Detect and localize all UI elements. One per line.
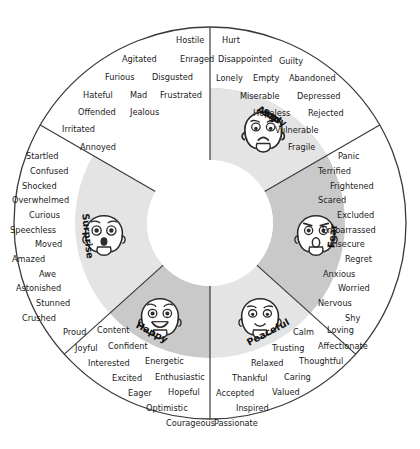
- pupil-left: [94, 228, 98, 232]
- face-outline: [86, 216, 123, 252]
- face-paws: [97, 247, 111, 255]
- face-paws: [256, 144, 270, 152]
- pupil-right: [269, 127, 272, 130]
- mouth-open: [101, 238, 107, 245]
- pupil-left: [251, 313, 254, 316]
- face-paws: [253, 330, 267, 338]
- emotion-wheel: [0, 0, 420, 449]
- face-outline: [245, 112, 282, 148]
- face-paws: [309, 247, 323, 255]
- pupil-left: [151, 311, 155, 315]
- center-hole: [147, 160, 273, 286]
- pupil-left: [307, 229, 311, 233]
- mouth-open: [312, 238, 319, 247]
- face-outline: [142, 299, 179, 335]
- pupil-right: [165, 311, 169, 315]
- pupil-right: [266, 313, 269, 316]
- pupil-right: [109, 228, 113, 232]
- face-outline: [242, 299, 279, 335]
- pupil-left: [254, 127, 257, 130]
- pupil-right: [321, 229, 325, 233]
- face-paws: [153, 330, 167, 338]
